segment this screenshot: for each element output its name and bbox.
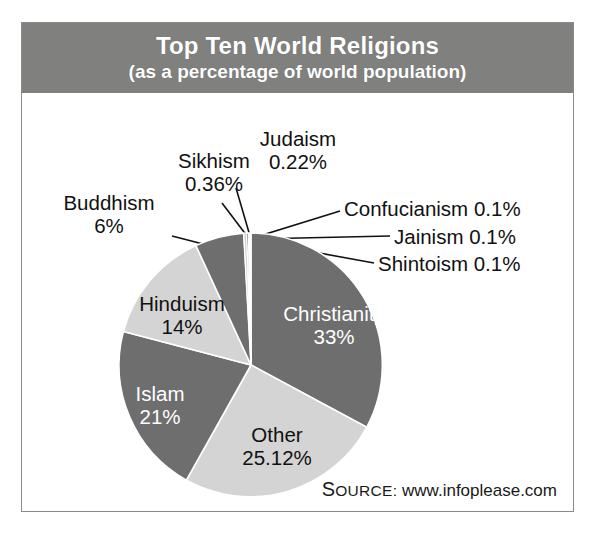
source-label-smallcaps: OURCE: xyxy=(335,482,397,499)
label-christianity-pct: 33% xyxy=(264,325,404,348)
label-islam-name: Islam xyxy=(105,382,215,405)
pie-chart-plot-area: Buddhism 6% Sikhism 0.36% Judaism 0.22% … xyxy=(22,93,573,513)
page-title: Top Ten World Religions xyxy=(156,33,439,60)
label-jainism: Jainism 0.1% xyxy=(394,225,516,248)
label-buddhism-pct: 6% xyxy=(44,214,174,237)
label-sikhism-pct: 0.36% xyxy=(152,172,276,195)
label-confucianism: Confucianism 0.1% xyxy=(344,197,521,220)
label-judaism: Judaism 0.22% xyxy=(238,127,358,174)
label-other: Other 25.12% xyxy=(212,423,342,470)
chart-figure: Top Ten World Religions (as a percentage… xyxy=(21,22,574,512)
label-other-name: Other xyxy=(212,423,342,446)
label-shintoism: Shintoism 0.1% xyxy=(378,252,520,275)
label-other-pct: 25.12% xyxy=(212,446,342,469)
chart-title-bar: Top Ten World Religions (as a percentage… xyxy=(22,23,573,93)
leader-line-sikhism xyxy=(222,203,247,236)
label-christianity-name: Christianity xyxy=(264,302,404,325)
label-judaism-name: Judaism xyxy=(238,127,358,150)
source-label-cap: S xyxy=(322,478,335,500)
label-hinduism: Hinduism 14% xyxy=(112,292,252,339)
label-islam-pct: 21% xyxy=(105,405,215,428)
page-subtitle: (as a percentage of world population) xyxy=(129,61,467,83)
source-url: www.infoplease.com xyxy=(402,481,557,500)
source-credit: SOURCE: www.infoplease.com xyxy=(322,478,557,501)
label-hinduism-name: Hinduism xyxy=(112,292,252,315)
label-islam: Islam 21% xyxy=(105,382,215,429)
label-hinduism-pct: 14% xyxy=(112,315,252,338)
label-judaism-pct: 0.22% xyxy=(238,150,358,173)
label-christianity: Christianity 33% xyxy=(264,302,404,349)
label-buddhism: Buddhism 6% xyxy=(44,191,174,238)
